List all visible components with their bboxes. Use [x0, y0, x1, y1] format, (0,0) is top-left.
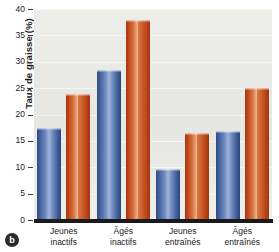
bar-top-highlight [216, 131, 240, 133]
bar-top-highlight [185, 133, 209, 135]
x-axis-label-3: Âgésentraînés [212, 226, 272, 248]
bar-series-orange-1 [126, 20, 150, 220]
bar-chart-figure: Taux de graisse (%) JeunesinactifsÂgésin… [0, 0, 279, 252]
bar-top-highlight [156, 169, 180, 171]
y-axis-tick-label: 25 [0, 84, 25, 93]
panel-label-badge: b [5, 233, 19, 247]
gridline [34, 62, 272, 63]
bar-top-highlight [126, 20, 150, 22]
x-axis-label-line: Âgés [114, 226, 133, 236]
bar-top-highlight [37, 128, 61, 130]
x-axis-baseline [34, 219, 273, 223]
y-axis-tick [28, 115, 33, 116]
x-axis-label-0: Jeunesinactifs [34, 226, 94, 248]
y-axis-tick-label: 0 [0, 216, 25, 225]
x-axis-label-1: Âgésinactifs [93, 226, 153, 248]
bar-series-orange-0 [66, 94, 90, 220]
y-axis-tick-label: 35 [0, 31, 25, 40]
x-axis-label-line: Jeunes [50, 226, 77, 236]
y-axis-tick [28, 62, 33, 63]
y-axis-tick [28, 9, 33, 10]
x-axis-label-line: Jeunes [169, 226, 196, 236]
gridline [34, 88, 272, 89]
y-axis-tick [28, 194, 33, 195]
x-axis-label-line: Âgés [233, 226, 252, 236]
x-axis-label-line: entraînés [153, 237, 213, 248]
bar-series-orange-2 [185, 133, 209, 220]
y-axis-tick [28, 167, 33, 168]
bar-series-blue-0 [37, 128, 61, 220]
y-axis-tick-label: 15 [0, 136, 25, 145]
bar-series-blue-1 [97, 70, 121, 220]
y-axis-tick-label: 40 [0, 5, 25, 14]
y-axis-tick [28, 88, 33, 89]
x-axis-label-line: inactifs [93, 237, 153, 248]
bar-series-blue-3 [216, 131, 240, 220]
bar-top-highlight [66, 94, 90, 96]
plot-area [34, 9, 272, 220]
gridline [34, 9, 272, 10]
bar-top-highlight [245, 88, 269, 90]
bar-series-blue-2 [156, 169, 180, 220]
y-axis-tick [28, 220, 33, 221]
y-axis-tick-label: 5 [0, 189, 25, 198]
y-axis-tick [28, 141, 33, 142]
x-axis-label-line: entraînés [212, 237, 272, 248]
y-axis-tick-label: 30 [0, 57, 25, 66]
y-axis-tick-label: 10 [0, 163, 25, 172]
y-axis-tick-label: 20 [0, 110, 25, 119]
y-axis-tick [28, 35, 33, 36]
x-axis-label-line: inactifs [34, 237, 94, 248]
bar-series-orange-3 [245, 88, 269, 220]
gridline [34, 35, 272, 36]
y-axis-title: Taux de graisse (%) [23, 0, 34, 144]
bar-top-highlight [97, 70, 121, 72]
x-axis-label-2: Jeunesentraînés [153, 226, 213, 248]
